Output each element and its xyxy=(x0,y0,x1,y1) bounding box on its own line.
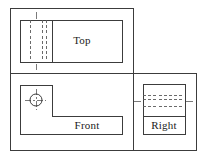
view-right: Right xyxy=(134,84,194,134)
top-view-label: Top xyxy=(73,34,91,46)
right-view-label: Right xyxy=(151,119,176,131)
front-view-label: Front xyxy=(75,119,100,131)
drawing-canvas: Top Front Ri xyxy=(0,0,204,158)
view-top: Top xyxy=(20,12,122,70)
orthographic-drawing: Top Front Ri xyxy=(0,0,204,158)
top-view-outline xyxy=(20,20,122,62)
